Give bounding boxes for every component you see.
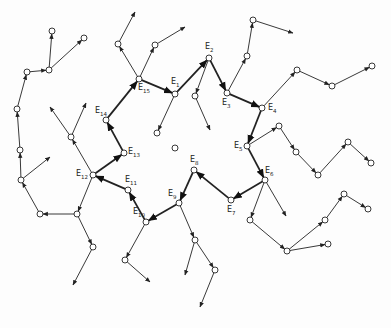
edge-arrow <box>256 21 293 33</box>
node-circle <box>172 145 178 151</box>
edge-arrow <box>185 243 194 275</box>
edge-arrow <box>73 250 92 285</box>
node-label-e5: E5 <box>234 142 243 152</box>
node-circle <box>154 130 160 136</box>
edge-arrow <box>158 27 185 43</box>
node-circle <box>228 197 234 203</box>
edge-arrow <box>108 81 137 117</box>
node-label-e1: E1 <box>171 78 180 88</box>
node-circle <box>276 123 282 129</box>
edge-arrow <box>107 123 122 151</box>
edge-arrow <box>96 176 125 189</box>
node-circle <box>244 53 250 59</box>
node-label-e9: E9 <box>168 190 177 200</box>
edge-arrow <box>200 273 214 307</box>
node-circle <box>103 117 109 123</box>
node-circle <box>294 67 300 73</box>
node-circle <box>247 217 253 223</box>
node-circle <box>345 139 351 145</box>
node-circle <box>18 177 24 183</box>
node-circle <box>365 206 371 212</box>
edge-arrow <box>247 23 252 53</box>
node-label-e15: E15 <box>138 84 150 94</box>
edge-arrow <box>320 144 346 173</box>
node-circle <box>49 28 55 34</box>
node-circle <box>37 211 43 217</box>
node-circle <box>262 177 268 183</box>
node-circle <box>369 63 375 69</box>
node-circle <box>224 90 230 96</box>
node-circle <box>90 172 96 178</box>
node-circle <box>136 76 142 82</box>
node-circle <box>115 41 121 47</box>
node-circle <box>315 172 321 178</box>
edge-arrow <box>30 70 46 71</box>
node-circle <box>329 83 335 89</box>
edge-arrow <box>234 182 263 199</box>
edge-arrow <box>22 183 38 212</box>
edge-arrow <box>127 262 150 282</box>
node-circle <box>259 105 265 111</box>
node-circle <box>192 93 198 99</box>
node-circle <box>81 35 87 41</box>
edge-arrow <box>210 61 225 91</box>
edge-arrow <box>119 12 135 41</box>
edge-arrow <box>149 204 177 220</box>
node-circle <box>172 91 178 97</box>
edge-arrow <box>126 225 144 258</box>
edge-arrow <box>23 157 50 178</box>
edge-arrow <box>264 72 295 106</box>
edge-arrow <box>17 112 20 147</box>
edge-arrow <box>228 59 245 91</box>
edge-arrow <box>298 154 316 173</box>
node-circle <box>68 134 74 140</box>
edge-arrow <box>49 34 52 67</box>
edge-arrow <box>73 140 92 173</box>
node-label-e14: E14 <box>95 107 107 117</box>
node-circle <box>24 69 30 75</box>
node-label-e12: E12 <box>76 170 88 180</box>
graph-diagram: E1E2E3E4E5E6E7E8E9E10E11E12E13E14E15 <box>0 0 391 328</box>
node-circle <box>125 187 131 193</box>
edge-arrow <box>180 173 193 201</box>
node-circle <box>244 143 250 149</box>
edge-arrow <box>230 94 259 107</box>
node-circle <box>191 167 197 173</box>
node-circle <box>90 244 96 250</box>
edge-arrow <box>197 242 214 267</box>
node-circle <box>121 150 127 156</box>
node-label-e7: E7 <box>227 206 236 216</box>
edge-arrow <box>252 222 284 249</box>
node-circle <box>250 17 256 23</box>
node-circle <box>143 219 149 225</box>
edge-arrow <box>196 99 210 130</box>
edge-arrow <box>347 196 366 208</box>
edge-arrow <box>20 153 21 177</box>
node-circle <box>341 191 347 197</box>
node-label-e2: E2 <box>205 43 214 53</box>
edge-arrow <box>281 129 295 150</box>
node-circle <box>368 160 374 166</box>
node-circle <box>14 106 20 112</box>
edge-arrow <box>300 71 330 85</box>
node-circle <box>322 217 328 223</box>
node-circle <box>74 211 80 217</box>
edge-arrow <box>18 75 26 106</box>
edge-arrow <box>248 149 263 178</box>
edge-arrow <box>180 206 194 237</box>
node-circle <box>17 147 23 153</box>
nodes <box>14 17 375 273</box>
edge-arrow <box>335 67 370 84</box>
node-label-e10: E10 <box>133 208 145 218</box>
node-circle <box>192 237 198 243</box>
edge-arrow <box>267 183 286 216</box>
edge-arrow <box>350 144 369 161</box>
edge-arrow <box>290 245 325 251</box>
edge-arrow <box>78 217 91 245</box>
node-label-e6: E6 <box>265 167 274 177</box>
edge-arrow <box>72 103 86 134</box>
node-circle <box>46 67 52 73</box>
node-circle <box>293 149 299 155</box>
node-circle <box>152 42 158 48</box>
node-circle <box>122 257 128 263</box>
